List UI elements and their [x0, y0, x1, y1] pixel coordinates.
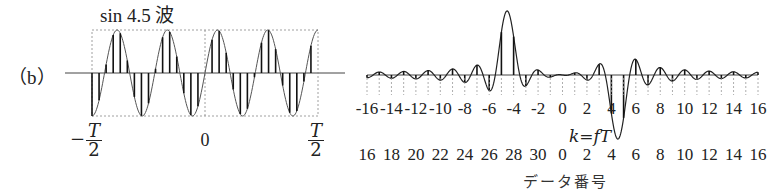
data-index-tick-label: 4: [607, 145, 616, 165]
k-tick-label: 14: [725, 99, 742, 119]
k-tick-label: -10: [429, 99, 452, 119]
data-index-tick-label: 16: [750, 145, 767, 165]
k-tick-label: 8: [656, 99, 665, 119]
x-label-plus-half-T: T 2: [308, 122, 324, 159]
data-index-tick-label: 16: [359, 145, 376, 165]
data-index-tick-label: 18: [383, 145, 400, 165]
data-index-tick-label: 2: [583, 145, 592, 165]
data-index-label: データ番号: [523, 170, 608, 191]
data-index-tick-label: 26: [481, 145, 498, 165]
wave-title: sin 4.5 波: [100, 0, 174, 27]
data-index-tick-label: 24: [456, 145, 473, 165]
data-index-tick-label: 22: [432, 145, 449, 165]
k-tick-label: 10: [676, 99, 693, 119]
data-index-tick-label: 6: [632, 145, 641, 165]
k-tick-label: 2: [583, 99, 592, 119]
k-tick-label: 12: [701, 99, 718, 119]
k-tick-label: -12: [405, 99, 428, 119]
data-index-tick-label: 28: [505, 145, 522, 165]
data-index-tick-label: 12: [701, 145, 718, 165]
k-tick-label: 4: [607, 99, 616, 119]
k-tick-label: -8: [458, 99, 472, 119]
k-tick-label: 16: [750, 99, 767, 119]
k-axis-label: k=fT: [569, 126, 611, 146]
k-tick-label: 6: [632, 99, 641, 119]
data-index-tick-label: 30: [530, 145, 547, 165]
panel-label: （b）: [8, 62, 56, 89]
k-tick-label: 0: [558, 99, 567, 119]
x-label-zero: 0: [201, 130, 210, 151]
x-label-minus-half-T: − T 2: [86, 122, 102, 159]
data-index-tick-label: 10: [676, 145, 693, 165]
data-index-tick-label: 20: [407, 145, 424, 165]
k-tick-label: -14: [380, 99, 403, 119]
k-tick-label: -6: [482, 99, 496, 119]
data-index-tick-label: 14: [725, 145, 742, 165]
data-index-tick-label: 0: [558, 145, 567, 165]
k-tick-label: -16: [356, 99, 379, 119]
k-tick-label: -4: [507, 99, 521, 119]
data-index-tick-label: 8: [656, 145, 665, 165]
k-tick-label: -2: [531, 99, 545, 119]
